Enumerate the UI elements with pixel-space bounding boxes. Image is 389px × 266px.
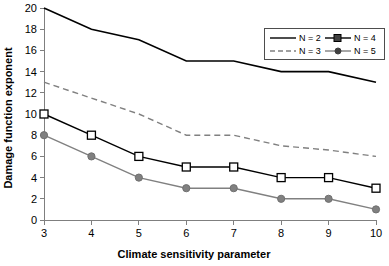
legend-label-n5: N = 5 — [354, 46, 376, 56]
data-point-marker — [325, 195, 332, 202]
y-axis-title: Damage function exponent — [2, 47, 14, 189]
legend-label-n3: N = 3 — [299, 46, 321, 56]
y-tick-label: 18 — [25, 23, 37, 35]
y-tick-label: 2 — [31, 193, 37, 205]
series-n=4 — [40, 110, 380, 192]
y-tick-label: 0 — [31, 214, 37, 226]
y-tick-label: 20 — [25, 2, 37, 14]
x-axis-title: Climate sensitivity parameter — [118, 248, 272, 260]
y-tick-label: 16 — [25, 44, 37, 56]
x-tick-label: 7 — [231, 227, 237, 239]
x-tick-label: 3 — [41, 227, 47, 239]
data-point-marker — [40, 132, 47, 139]
y-tick-label: 10 — [25, 108, 37, 120]
series-n=5 — [40, 132, 379, 213]
y-tick-label: 12 — [25, 87, 37, 99]
data-point-marker — [325, 174, 333, 182]
x-tick-label: 5 — [136, 227, 142, 239]
data-point-marker — [278, 195, 285, 202]
x-axis-ticks: 345678910 — [41, 220, 382, 239]
line-chart: 02468101214161820 345678910 Climate sens… — [0, 0, 389, 266]
chart-container: 02468101214161820 345678910 Climate sens… — [0, 0, 389, 266]
legend-swatch-circle-marker — [335, 48, 341, 54]
data-point-marker — [40, 110, 48, 118]
series-n=3 — [44, 82, 376, 156]
legend-label-n2: N = 2 — [299, 33, 321, 43]
data-point-marker — [372, 184, 380, 192]
legend-swatch-square-marker — [334, 35, 341, 42]
data-point-marker — [230, 185, 237, 192]
y-tick-label: 14 — [25, 66, 37, 78]
x-tick-label: 10 — [370, 227, 382, 239]
x-tick-label: 8 — [278, 227, 284, 239]
y-tick-label: 8 — [31, 129, 37, 141]
data-point-marker — [230, 163, 238, 171]
data-point-marker — [135, 152, 143, 160]
data-point-marker — [277, 174, 285, 182]
x-tick-label: 4 — [88, 227, 94, 239]
data-point-marker — [135, 174, 142, 181]
data-point-marker — [88, 153, 95, 160]
legend-label-n4: N = 4 — [354, 33, 376, 43]
chart-legend: N = 2 N = 4 N = 3 N = 5 — [264, 28, 384, 59]
data-point-marker — [87, 131, 95, 139]
y-tick-label: 4 — [31, 172, 37, 184]
data-point-marker — [183, 185, 190, 192]
data-point-marker — [372, 206, 379, 213]
data-point-marker — [182, 163, 190, 171]
y-tick-label: 6 — [31, 150, 37, 162]
x-tick-label: 9 — [326, 227, 332, 239]
x-tick-label: 6 — [183, 227, 189, 239]
series-line — [44, 82, 376, 156]
